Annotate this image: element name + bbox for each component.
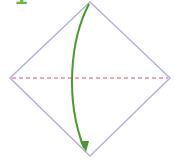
fold-arrow [72,4,89,148]
fold-diagram [0,0,184,163]
paper-square [10,2,170,156]
